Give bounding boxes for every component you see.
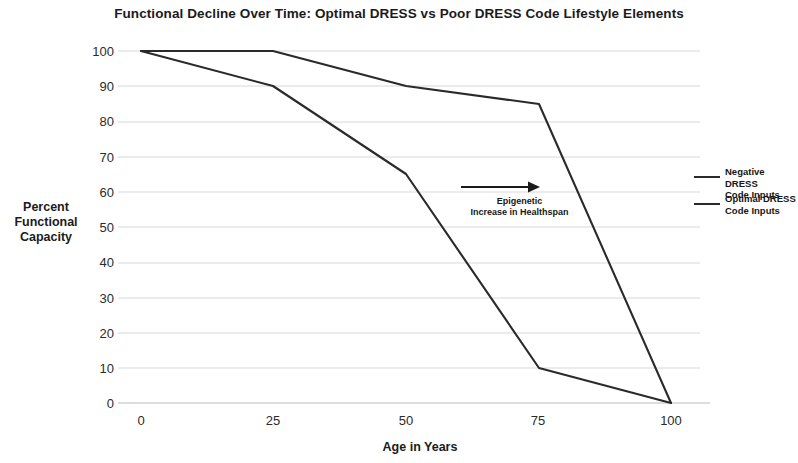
annotation-line-1: Epigenetic <box>432 196 607 207</box>
annotation-epigenetic-healthspan: Epigenetic Increase in Healthspan <box>432 196 607 218</box>
legend-label-optimal-dress: Optimal DRESS Code Inputs <box>725 193 797 216</box>
legend-swatch-optimal-dress <box>694 203 720 205</box>
legend-item-optimal-dress: Optimal DRESS Code Inputs <box>694 193 798 220</box>
right-arrow-icon <box>461 182 540 193</box>
gridlines <box>118 51 710 403</box>
legend-swatch-negative-dress <box>694 176 720 178</box>
legend-label-optimal-dress-line-1: Optimal DRESS <box>725 193 797 205</box>
chart-legend: Negative DRESS Code Inputs Optimal DRESS… <box>694 166 798 220</box>
annotation-line-2: Increase in Healthspan <box>432 207 607 218</box>
chart-container: Functional Decline Over Time: Optimal DR… <box>0 0 798 463</box>
legend-label-negative-dress-line-1: Negative DRESS <box>725 166 797 189</box>
plot-area <box>0 0 798 463</box>
legend-label-optimal-dress-line-2: Code Inputs <box>725 205 797 217</box>
legend-item-negative-dress: Negative DRESS Code Inputs <box>694 166 798 193</box>
